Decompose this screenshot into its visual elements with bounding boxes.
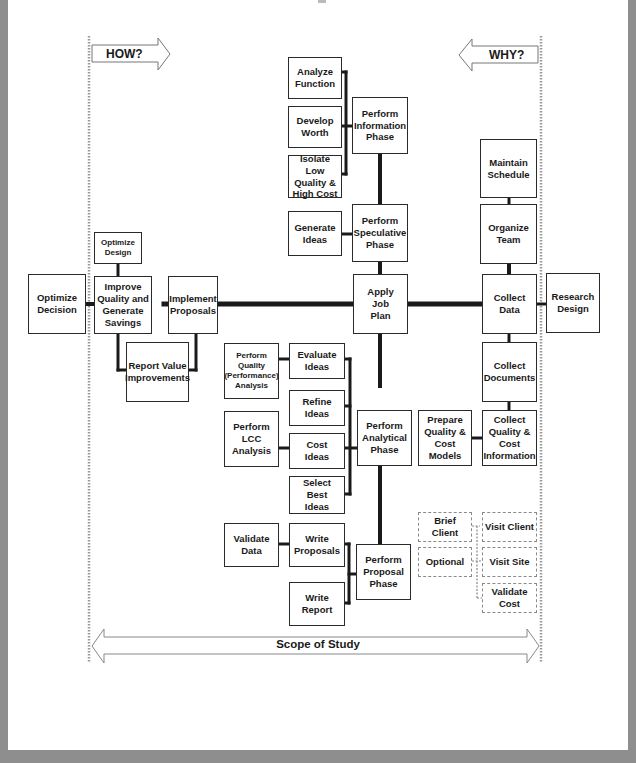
box-collect-data: Collect Data (482, 274, 537, 334)
box-visit-client: Visit Client (482, 512, 537, 542)
box-optimize-decision: Optimize Decision (28, 274, 86, 334)
box-perform-speculative-phase: Perform Speculative Phase (352, 204, 408, 262)
box-write-report: Write Report (289, 582, 345, 626)
box-cost-ideas: Cost Ideas (289, 433, 345, 469)
box-optimize-design: Optimize Design (94, 232, 142, 264)
box-organize-team: Organize Team (480, 204, 537, 264)
box-isolate-low-quality-high-cost: Isolate Low Quality & High Cost (288, 155, 342, 198)
box-brief-client: Brief Client (418, 512, 472, 542)
box-collect-documents: Collect Documents (482, 342, 537, 402)
box-evaluate-ideas: Evaluate Ideas (289, 343, 345, 379)
box-perform-analytical-phase: Perform Analytical Phase (357, 410, 412, 466)
why-label: WHY? (489, 48, 524, 62)
box-validate-cost: Validate Cost (482, 583, 537, 613)
how-label: HOW? (106, 47, 143, 61)
box-perform-proposal-phase: Perform Proposal Phase (356, 544, 411, 600)
box-report-value-improvements: Report Value Improvements (126, 342, 189, 402)
box-select-best-ideas: Select Best Ideas (289, 476, 345, 514)
box-write-proposals: Write Proposals (289, 523, 345, 567)
box-visit-site: Visit Site (482, 547, 537, 577)
box-collect-quality-cost-information: Collect Quality & Cost Information (482, 410, 537, 466)
box-perform-lcc-analysis: Perform LCC Analysis (224, 411, 279, 467)
box-optional: Optional (418, 547, 472, 577)
box-prepare-quality-cost-models: Prepare Quality & Cost Models (418, 410, 472, 466)
box-research-design: Research Design (546, 273, 600, 333)
box-analyze-function: Analyze Function (288, 57, 342, 99)
box-develop-worth: Develop Worth (288, 106, 342, 148)
box-refine-ideas: Refine Ideas (289, 390, 345, 426)
box-maintain-schedule: Maintain Schedule (480, 139, 537, 198)
scope-of-study-label: Scope of Study (218, 638, 418, 650)
box-perform-quality-performance-analysis: Perform Quality (Performance) Analysis (224, 343, 279, 399)
box-validate-data: Validate Data (224, 523, 279, 567)
box-improve-quality-generate-savings: Improve Quality and Generate Savings (94, 276, 152, 334)
box-perform-information-phase: Perform Information Phase (352, 97, 408, 154)
box-apply-job-plan: Apply Job Plan (353, 274, 408, 334)
box-implement-proposals: Implement Proposals (168, 276, 218, 334)
fast-diagram: HOW? WHY? Scope of Study Optimize Decisi… (0, 0, 636, 763)
box-generate-ideas: Generate Ideas (288, 211, 342, 256)
